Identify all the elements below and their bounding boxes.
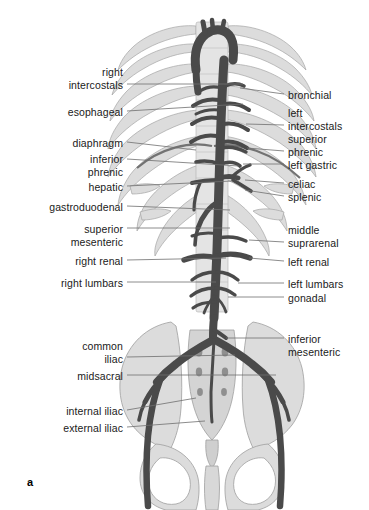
label-line: inferior	[288, 333, 340, 346]
label-line: diaphragm	[72, 137, 123, 150]
label-line: superior	[71, 223, 123, 236]
label-common-iliac: commoniliac	[82, 340, 123, 365]
label-left-renal: left renal	[288, 256, 329, 269]
label-line: superior	[288, 133, 327, 146]
label-left-intercostals: leftintercostals	[288, 107, 342, 132]
label-line: iliac	[82, 353, 123, 366]
label-line: gastroduodenal	[49, 201, 123, 214]
label-line: left	[288, 107, 342, 120]
label-line: right renal	[75, 255, 123, 268]
panel-letter: a	[27, 476, 33, 488]
label-line: left gastric	[288, 159, 337, 172]
label-splenic: splenic	[288, 191, 321, 204]
label-esophageal: esophageal	[68, 106, 123, 119]
label-superior-mesenteric: superiormesenteric	[71, 223, 123, 248]
label-line: gonadal	[288, 292, 326, 305]
label-line: mesenteric	[288, 346, 340, 359]
label-line: left renal	[288, 256, 329, 269]
label-line: intercostals	[69, 79, 123, 92]
label-midsacral: midsacral	[77, 370, 123, 383]
label-line: suprarenal	[288, 237, 339, 250]
label-diaphragm: diaphragm	[72, 137, 123, 150]
label-line: mesenteric	[71, 236, 123, 249]
label-line: left lumbars	[288, 278, 343, 291]
label-celiac: celiac	[288, 178, 315, 191]
label-superior-phrenic: superiorphrenic	[288, 133, 327, 158]
label-inferior-phrenic: inferiorphrenic	[88, 153, 123, 178]
label-line: midsacral	[77, 370, 123, 383]
label-line: external iliac	[63, 422, 123, 435]
anatomy-figure: rightintercostalsesophagealdiaphragminfe…	[0, 0, 369, 510]
label-line: right	[69, 66, 123, 79]
label-inferior-mesenteric: inferiormesenteric	[288, 333, 340, 358]
label-bronchial: bronchial	[288, 89, 332, 102]
label-right-renal: right renal	[75, 255, 123, 268]
label-external-iliac: external iliac	[63, 422, 123, 435]
label-left-lumbars: left lumbars	[288, 278, 343, 291]
label-line: right lumbars	[61, 277, 123, 290]
label-internal-iliac: internal iliac	[66, 405, 123, 418]
label-left-gastric: left gastric	[288, 159, 337, 172]
label-line: hepatic	[88, 181, 123, 194]
label-line: inferior	[88, 153, 123, 166]
label-line: intercostals	[288, 120, 342, 133]
label-gastroduodenal: gastroduodenal	[49, 201, 123, 214]
label-line: common	[82, 340, 123, 353]
label-line: splenic	[288, 191, 321, 204]
anatomy-illustration	[0, 0, 369, 510]
label-middle-suprarenal: middlesuprarenal	[288, 224, 339, 249]
label-line: internal iliac	[66, 405, 123, 418]
label-line: celiac	[288, 178, 315, 191]
label-hepatic: hepatic	[88, 181, 123, 194]
label-line: middle	[288, 224, 339, 237]
label-line: bronchial	[288, 89, 332, 102]
label-gonadal: gonadal	[288, 292, 326, 305]
leader-left-renal	[249, 258, 284, 261]
label-right-lumbars: right lumbars	[61, 277, 123, 290]
label-line: phrenic	[288, 146, 327, 159]
label-line: esophageal	[68, 106, 123, 119]
label-line: phrenic	[88, 166, 123, 179]
label-right-intercostals: rightintercostals	[69, 66, 123, 91]
